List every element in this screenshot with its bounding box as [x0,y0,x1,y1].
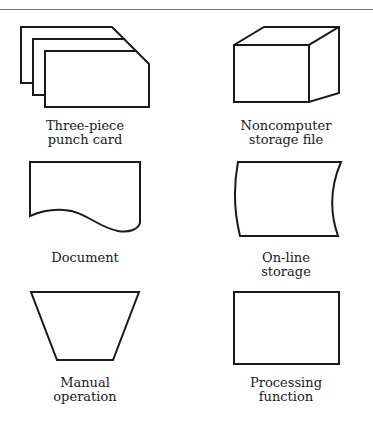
punch-card-label: Three-piece punch card [46,119,124,146]
symbol-cell-processing-function: Processing function [211,291,361,403]
processing-function-label: Processing function [250,376,322,403]
online-storage-label: On-line storage [261,251,311,278]
online-storage-label-line1: On-line [261,251,311,265]
manual-operation-label-line1: Manual [53,376,116,390]
top-rule-divider [0,9,373,10]
punch-card-shape-box [10,26,160,110]
punch-card-label-line2: punch card [46,133,124,147]
document-label: Document [51,251,119,265]
online-storage-shape-box [211,161,361,238]
document-shape-box [10,161,160,238]
manual-operation-icon [30,291,141,362]
processing-function-label-line2: function [250,390,322,404]
manual-operation-label: Manual operation [53,376,116,403]
noncomputer-storage-label: Noncomputer storage file [241,119,332,146]
processing-function-icon [233,291,340,365]
symbol-cell-online-storage: On-line storage [211,161,361,278]
document-icon [29,161,141,235]
manual-operation-shape-box [10,291,160,364]
noncomputer-storage-label-line1: Noncomputer [241,119,332,133]
storage-box-icon [233,26,340,104]
noncomputer-storage-shape-box [211,26,361,110]
online-storage-label-line2: storage [261,265,311,279]
processing-function-label-line1: Processing [250,376,322,390]
symbol-cell-punch-card: Three-piece punch card [10,26,160,146]
online-storage-icon [230,161,343,238]
punch-card-icon [20,26,151,109]
processing-function-shape-box [211,291,361,364]
flowchart-symbols-diagram: Three-piece punch card Noncomputer stora… [0,0,373,425]
symbol-cell-noncomputer-storage: Noncomputer storage file [211,26,361,146]
symbol-cell-manual-operation: Manual operation [10,291,160,403]
manual-operation-label-line2: operation [53,390,116,404]
noncomputer-storage-label-line2: storage file [241,133,332,147]
symbol-cell-document: Document [10,161,160,265]
document-label-line1: Document [51,251,119,265]
punch-card-label-line1: Three-piece [46,119,124,133]
